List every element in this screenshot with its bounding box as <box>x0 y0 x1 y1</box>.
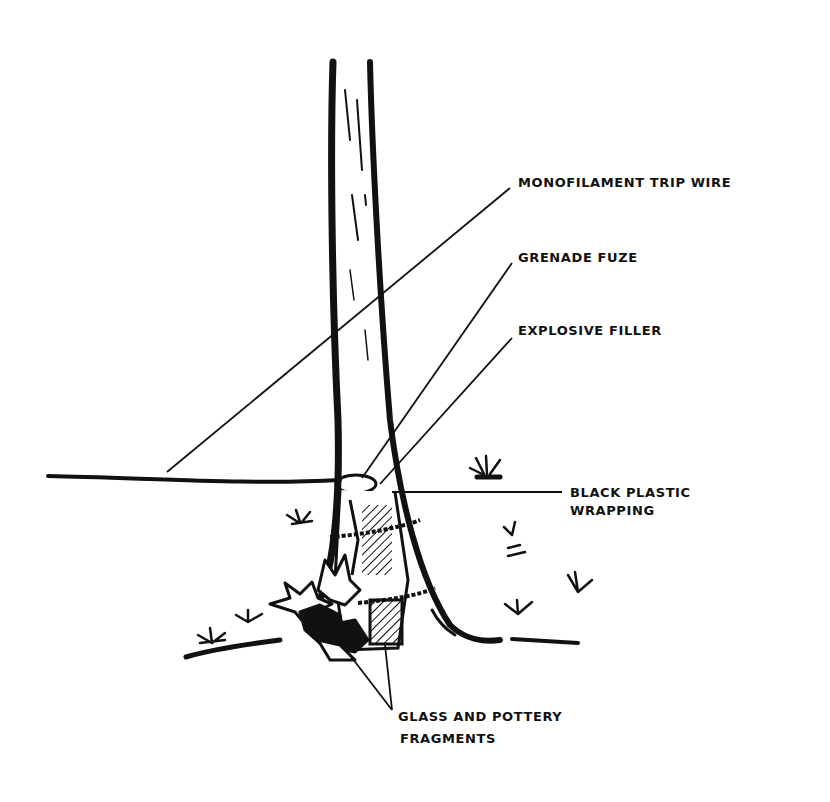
label-fragments-line1: GLASS AND POTTERY <box>398 708 562 726</box>
label-trip-wire: MONOFILAMENT TRIP WIRE <box>518 174 731 192</box>
label-wrapping-line2: WRAPPING <box>570 502 655 520</box>
label-explosive-filler: EXPLOSIVE FILLER <box>518 322 662 340</box>
label-fragments-line2: FRAGMENTS <box>400 730 496 748</box>
booby-trap-illustration <box>0 0 830 802</box>
trip-wire <box>48 476 340 482</box>
leader-fragments-2 <box>385 645 392 710</box>
label-grenade-fuze: GRENADE FUZE <box>518 249 638 267</box>
leader-fragments-1 <box>346 650 392 710</box>
diagram-canvas: MONOFILAMENT TRIP WIRE GRENADE FUZE EXPL… <box>0 0 830 802</box>
label-wrapping-line1: BLACK PLASTIC <box>570 484 691 502</box>
leader-filler <box>380 338 512 484</box>
